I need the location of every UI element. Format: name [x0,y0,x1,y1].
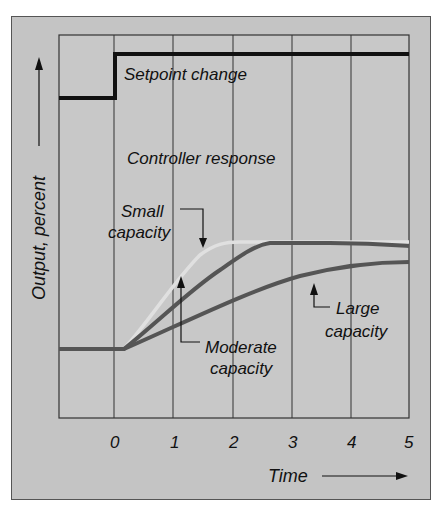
chart-svg: Setpoint change Controller response Smal… [0,0,440,516]
setpoint-label: Setpoint change [124,65,247,84]
large-capacity-label-2: capacity [325,322,389,341]
x-tick-4: 4 [347,433,356,452]
moderate-capacity-label-2: capacity [210,359,274,378]
x-axis-arrowhead [396,472,408,480]
x-tick-0: 0 [110,433,120,452]
x-tick-labels: 0 1 2 3 4 5 [110,433,414,452]
x-tick-1: 1 [170,433,179,452]
small-capacity-label-2: capacity [108,223,172,242]
x-tick-5: 5 [404,433,414,452]
y-axis-arrowhead [35,57,43,70]
x-axis-label: Time [268,466,308,486]
large-capacity-label-1: Large [336,299,379,318]
x-tick-3: 3 [288,433,298,452]
controller-response-label: Controller response [127,149,275,168]
x-tick-2: 2 [228,433,239,452]
small-capacity-label-1: Small [121,202,165,221]
y-axis-label: Output, percent [29,175,49,300]
moderate-capacity-label-1: Moderate [205,338,277,357]
